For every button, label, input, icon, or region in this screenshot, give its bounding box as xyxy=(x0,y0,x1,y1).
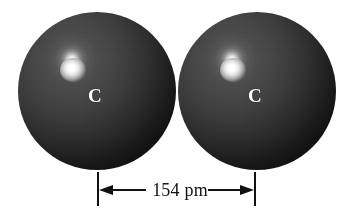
bond-length-label: 154 pm xyxy=(0,180,360,201)
atom-label-carbon-right: C xyxy=(248,86,262,105)
atom-label-carbon-left: C xyxy=(88,86,102,105)
bond-length-figure: C C 154 pm xyxy=(0,0,360,220)
